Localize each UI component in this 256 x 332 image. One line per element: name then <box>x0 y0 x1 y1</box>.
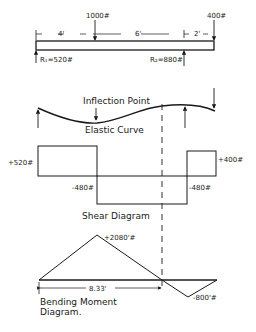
beam-analysis-diagram: 4' 6' 2' 1000# 400# R₁=520# R₂=880# Infl <box>0 0 256 332</box>
dimension-line: 4' 6' 2' <box>36 30 214 40</box>
zero-moment-distance: 8.33' <box>89 285 107 293</box>
moment-min-label: -800'# <box>193 294 217 302</box>
shear-diagram: +520# -480# -480# +400# Shear Diagram <box>8 146 243 221</box>
shear-label-plus520: +520# <box>8 159 33 167</box>
shear-block-negative <box>97 176 187 204</box>
shear-label-minus480-left: -480# <box>72 184 94 192</box>
load-label-1000: 1000# <box>86 12 110 20</box>
elastic-curve-title: Elastic Curve <box>85 125 144 135</box>
zero-moment-dimension: 8.33' <box>39 282 161 294</box>
shear-label-plus400: +400# <box>218 156 243 164</box>
elastic-curve <box>38 105 215 123</box>
moment-diagram-title-line2: Diagram. <box>40 307 82 317</box>
dimension-4ft: 4' <box>58 30 64 38</box>
reaction-label-r1: R₁=520# <box>40 56 73 64</box>
beam-body <box>36 41 214 50</box>
shear-label-minus480-right: -480# <box>189 184 211 192</box>
reaction-r2: R₂=880# <box>150 51 184 66</box>
shear-block-positive-right <box>187 151 216 176</box>
load-400: 400# <box>207 12 226 40</box>
bending-moment-diagram: +2080'# -800'# 8.33' Bending Moment Diag… <box>39 234 217 317</box>
reaction-label-r2: R₂=880# <box>150 56 183 64</box>
dimension-6ft: 6' <box>135 30 141 38</box>
loaded-beam: 4' 6' 2' 1000# 400# R₁=520# R₂=880# <box>36 12 226 66</box>
load-1000: 1000# <box>86 12 110 40</box>
inflection-point-label: Inflection Point <box>83 96 150 106</box>
elastic-curve-section: Inflection Point Elastic Curve <box>38 88 215 135</box>
shear-diagram-title: Shear Diagram <box>82 211 150 221</box>
moment-positive-region <box>39 235 162 280</box>
moment-max-label: +2080'# <box>104 234 136 242</box>
moment-diagram-title-line1: Bending Moment <box>40 297 117 307</box>
reaction-r1: R₁=520# <box>36 51 73 64</box>
dimension-2ft: 2' <box>194 30 200 38</box>
load-label-400: 400# <box>207 12 226 20</box>
shear-block-positive-left <box>38 146 97 176</box>
